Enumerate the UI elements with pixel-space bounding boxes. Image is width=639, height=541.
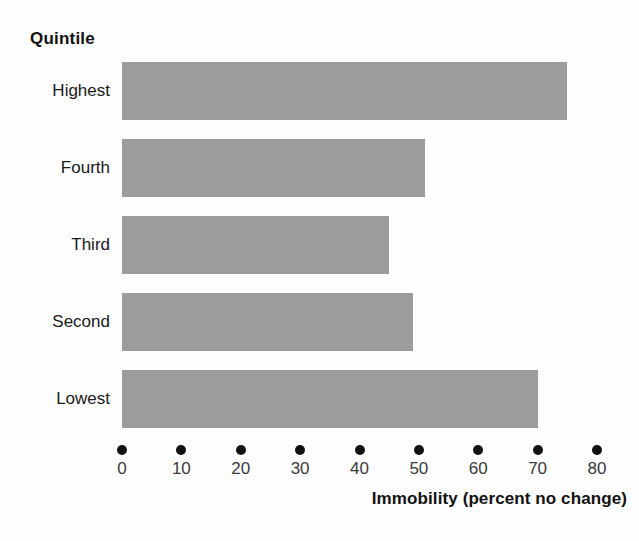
y-axis-title: Quintile — [30, 29, 95, 49]
bar — [122, 216, 389, 274]
x-axis-tick-label: 0 — [100, 459, 144, 479]
tick-dot-icon — [236, 445, 246, 455]
x-axis-tick-label: 80 — [575, 459, 619, 479]
x-axis-tick-label: 60 — [456, 459, 500, 479]
bar-category-label: Highest — [52, 81, 122, 101]
bar — [122, 139, 425, 197]
x-axis: 01020304050607080 — [0, 440, 639, 485]
bar-row: Second — [0, 293, 639, 351]
bar — [122, 370, 538, 428]
tick-dot-icon — [295, 445, 305, 455]
x-axis-tick-label: 70 — [516, 459, 560, 479]
x-axis-tick-label: 30 — [278, 459, 322, 479]
bar-row: Third — [0, 216, 639, 274]
tick-dot-icon — [176, 445, 186, 455]
bar — [122, 293, 413, 351]
bar-category-label: Third — [71, 235, 122, 255]
tick-dot-icon — [117, 445, 127, 455]
x-axis-tick-label: 10 — [159, 459, 203, 479]
bar-row: Fourth — [0, 139, 639, 197]
x-axis-tick-label: 50 — [397, 459, 441, 479]
tick-dot-icon — [414, 445, 424, 455]
tick-dot-icon — [473, 445, 483, 455]
bar-category-label: Lowest — [56, 389, 122, 409]
x-axis-tick-label: 20 — [219, 459, 263, 479]
x-axis-title: Immobility (percent no change) — [372, 489, 627, 509]
bar-row: Highest — [0, 62, 639, 120]
plot-area: HighestFourthThirdSecondLowest — [0, 55, 639, 440]
bar-category-label: Second — [52, 312, 122, 332]
tick-dot-icon — [533, 445, 543, 455]
tick-dot-icon — [592, 445, 602, 455]
x-axis-tick-label: 40 — [338, 459, 382, 479]
tick-dot-icon — [355, 445, 365, 455]
bar-category-label: Fourth — [61, 158, 122, 178]
bar-chart: Quintile HighestFourthThirdSecondLowest … — [0, 0, 639, 541]
bar-row: Lowest — [0, 370, 639, 428]
bar — [122, 62, 567, 120]
